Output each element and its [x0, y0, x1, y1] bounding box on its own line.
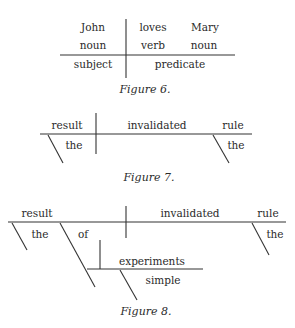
fig7-subject-modifier-slant — [48, 135, 63, 163]
fig6-word-john: John — [80, 21, 105, 33]
fig6-word-loves: loves — [139, 21, 166, 33]
fig8-prep-object: experiments — [119, 255, 185, 267]
fig7-object-modifier: the — [227, 139, 244, 151]
figure-8-diagram: result invalidated rule the of experimen… — [8, 206, 286, 318]
fig6-pos-verb: verb — [140, 39, 165, 51]
fig7-subject: result — [52, 119, 84, 131]
fig8-prep-object-modifier: simple — [146, 274, 181, 286]
fig6-role-predicate: predicate — [155, 58, 206, 70]
page: John loves Mary noun verb noun subject p… — [0, 0, 295, 328]
fig6-pos-noun-2: noun — [191, 39, 218, 51]
figure-6-diagram: John loves Mary noun verb noun subject p… — [60, 19, 235, 96]
fig8-subject-modifier: the — [31, 228, 48, 240]
fig8-object: rule — [257, 207, 278, 219]
fig8-subject-modifier-slant — [12, 223, 27, 250]
fig7-subject-modifier: the — [65, 139, 82, 151]
fig7-verb: invalidated — [127, 119, 186, 131]
fig7-caption: Figure 7. — [122, 171, 174, 184]
figure-7-diagram: result invalidated rule the the Figure 7… — [40, 113, 252, 184]
fig8-caption: Figure 8. — [119, 305, 171, 318]
fig8-preposition: of — [78, 228, 89, 240]
fig8-object-modifier: the — [266, 228, 283, 240]
fig7-object: rule — [222, 119, 243, 131]
fig6-word-mary: Mary — [191, 21, 219, 33]
fig8-prep-object-modifier-slant — [120, 270, 137, 300]
fig6-role-subject: subject — [74, 58, 113, 70]
fig6-pos-noun: noun — [80, 39, 107, 51]
fig8-verb: invalidated — [160, 207, 219, 219]
fig8-subject: result — [22, 207, 54, 219]
fig6-caption: Figure 6. — [118, 83, 170, 96]
